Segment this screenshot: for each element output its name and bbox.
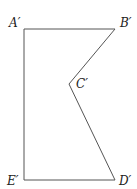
vertex-label-d: D′ (118, 174, 132, 188)
vertex-label-a: A′ (8, 16, 21, 30)
polygon-diagram: A′ B′ C′ D′ E′ (0, 0, 137, 189)
vertex-label-e: E′ (6, 174, 19, 188)
polygon-shape (24, 29, 115, 180)
vertex-label-c: C′ (76, 77, 88, 91)
vertex-label-b: B′ (119, 16, 132, 30)
